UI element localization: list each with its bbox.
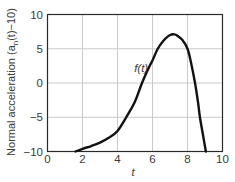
y-tick-label: 5 xyxy=(37,43,43,55)
x-tick-label: 4 xyxy=(114,153,121,165)
x-tick-label: 2 xyxy=(79,153,85,165)
curve-annotation-label: f(t) xyxy=(134,62,148,74)
x-axis-title: t xyxy=(131,166,135,178)
y-tick-label: −10 xyxy=(23,146,43,158)
y-tick-label: 0 xyxy=(37,77,43,89)
y-tick-label: −5 xyxy=(30,111,43,123)
x-tick-label: 6 xyxy=(149,153,155,165)
series-line-f-t xyxy=(76,34,206,151)
chart: 0246810 1050−5−10 f(t) t Normal accelera… xyxy=(0,0,235,182)
y-axis-title-suffix: (t)−10) xyxy=(5,8,17,41)
x-tick-label: 0 xyxy=(44,153,50,165)
y-axis-title-prefix: Normal acceleration (a xyxy=(5,44,17,156)
x-axis-tick-labels: 0246810 xyxy=(44,153,229,165)
y-axis-title: Normal acceleration (an(t)−10) xyxy=(5,8,20,156)
x-tick-label: 8 xyxy=(184,153,190,165)
y-axis-tick-labels: 1050−5−10 xyxy=(23,9,43,158)
x-tick-label: 10 xyxy=(216,153,229,165)
grid-lines xyxy=(48,15,223,152)
y-tick-label: 10 xyxy=(30,9,43,21)
